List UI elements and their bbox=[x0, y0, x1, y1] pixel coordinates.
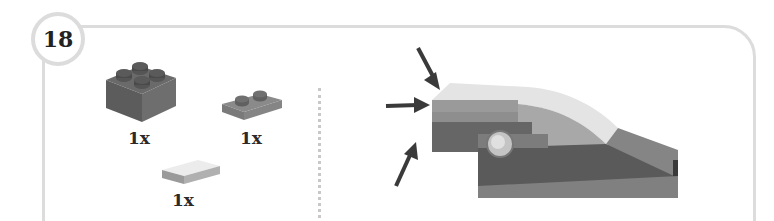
plate-1x2-icon bbox=[220, 88, 284, 122]
brick-2x2-icon bbox=[102, 58, 180, 124]
assembly-model-illustration bbox=[378, 38, 678, 218]
step-number-badge: 18 bbox=[31, 12, 85, 66]
section-divider bbox=[318, 88, 321, 218]
step-number: 18 bbox=[43, 26, 74, 52]
arrow-icon bbox=[386, 48, 435, 186]
part-quantity: 1x bbox=[172, 190, 194, 210]
tile-1x2-icon bbox=[160, 158, 222, 186]
part-quantity: 1x bbox=[128, 128, 150, 148]
part-quantity: 1x bbox=[240, 128, 262, 148]
